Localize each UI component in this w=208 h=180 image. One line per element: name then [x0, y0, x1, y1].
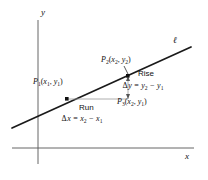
p3-close-paren: ) [144, 97, 147, 106]
delta-y-term1-subscript: 2 [145, 85, 148, 91]
p3-subscript: 3 [122, 101, 125, 107]
p1-y-subscript: 1 [57, 81, 60, 87]
delta-y-minus: − [148, 81, 158, 90]
x-axis-label: x [185, 152, 189, 161]
p1-subscript: 1 [38, 81, 41, 87]
y-axis-label: y [41, 8, 45, 17]
delta-x-term2-subscript: 1 [100, 118, 103, 124]
p2-close-paren: ) [128, 55, 131, 64]
figure-canvas [0, 0, 208, 180]
line-label: ℓ [173, 36, 177, 45]
p3-y-subscript: 1 [141, 101, 144, 107]
point-label-p1: P1(x1, y1) [33, 78, 63, 86]
delta-x-minus: − [87, 114, 97, 123]
p2-subscript: 2 [106, 59, 109, 65]
p2-y-subscript: 2 [125, 59, 128, 65]
delta-y-equation: Δy = y2 − y1 [122, 82, 163, 90]
p3-x-subscript: 2 [131, 101, 134, 107]
slope-diagram-figure: y x ℓ P1(x1, y1) P2(x2, y2) P3(x2, y1) R… [0, 0, 208, 180]
delta-y-equals: = [132, 81, 142, 90]
delta-y-term2-subscript: 1 [161, 85, 164, 91]
rise-term-label: Rise [138, 70, 154, 78]
point-label-p3: P3(x2, y1) [117, 98, 147, 106]
run-term-label: Run [79, 104, 94, 112]
point-marker-p2 [126, 74, 130, 78]
point-label-p2: P2(x2, y2) [101, 56, 131, 64]
delta-x-equals: = [71, 114, 81, 123]
p1-close-paren: ) [60, 77, 63, 86]
delta-x-term1-subscript: 2 [84, 118, 87, 124]
p2-leader [124, 66, 128, 74]
p2-x-subscript: 2 [115, 59, 118, 65]
delta-x-equation: Δx = x2 − x1 [61, 115, 102, 123]
point-marker-p1 [65, 97, 69, 101]
p1-x-subscript: 1 [47, 81, 50, 87]
